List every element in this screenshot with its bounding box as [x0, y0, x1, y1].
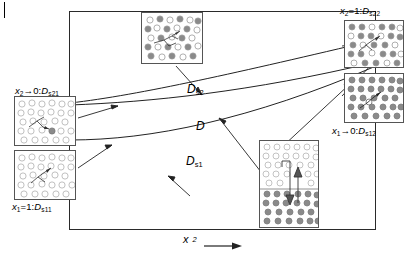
limit-label-top-left: x2→0:Ds21 [15, 85, 59, 97]
inset-particle-box-left-lower [14, 150, 76, 200]
curve-label-d: D [196, 119, 205, 134]
inset-particle-box-right-lower [344, 73, 404, 123]
plot-frame [69, 11, 376, 230]
curve-label-ds2: Ds2 [187, 82, 204, 97]
x-axis-arrow-icon [204, 242, 242, 250]
limit-label-bottom-right: x1→0:Ds12 [332, 125, 376, 137]
inset-particle-box-left-upper [14, 96, 76, 146]
curve-label-ds1: Ds1 [186, 154, 203, 169]
inset-particle-box-interface [259, 140, 319, 228]
limit-label-top-right: x2=1:Ds22 [340, 5, 380, 17]
page-edge-rule [4, 2, 5, 18]
limit-label-bottom-left: x1=1:Ds11 [12, 201, 52, 213]
x-axis-label: x2 [183, 233, 197, 245]
inset-particle-box-top [141, 12, 203, 64]
inset-particle-box-right-upper [344, 20, 404, 68]
figure-canvas: Ds2 D Ds1 x2→0:Ds21 x1=1:Ds11 x2=1:Ds22 … [0, 0, 407, 259]
